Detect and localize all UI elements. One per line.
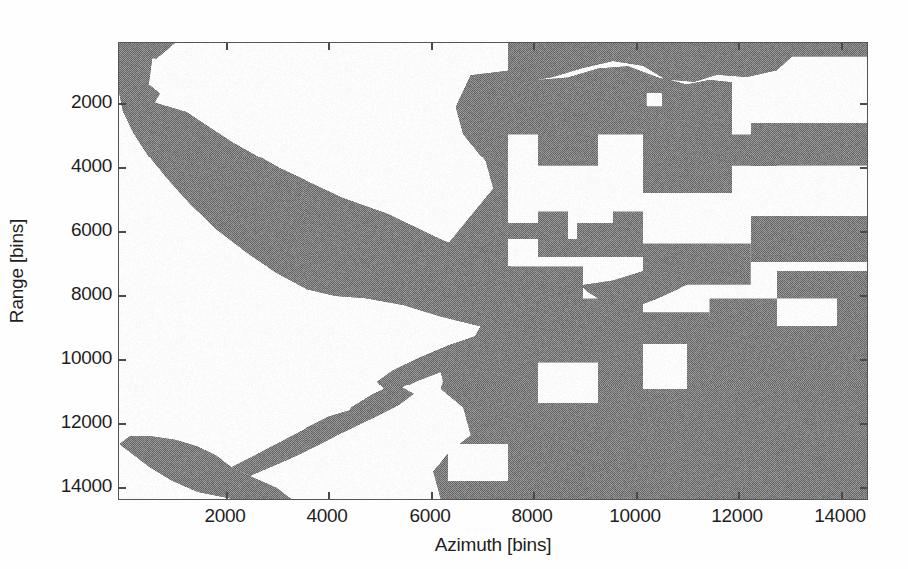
ytick-right-4000 [860, 167, 867, 169]
y-axis-label: Range [bins] [6, 219, 28, 323]
xticklabel-5: 12000 [711, 505, 762, 527]
xtick-top-4000 [328, 43, 330, 50]
xtick-8000 [533, 492, 535, 499]
ytick-12000 [119, 423, 126, 425]
mask-image [119, 43, 867, 499]
yticklabel-5: 12000 [61, 411, 112, 433]
yticklabel-0: 2000 [71, 91, 112, 113]
ytick-10000 [119, 359, 126, 361]
xtick-12000 [738, 492, 740, 499]
ytick-right-6000 [860, 231, 867, 233]
ytick-right-8000 [860, 295, 867, 297]
plot-area [118, 42, 868, 500]
xtick-top-2000 [226, 43, 228, 50]
xticklabel-0: 2000 [204, 505, 245, 527]
ytick-6000 [119, 231, 126, 233]
ytick-14000 [119, 487, 126, 489]
yticklabel-3: 8000 [71, 283, 112, 305]
xtick-14000 [841, 492, 843, 499]
xtick-6000 [431, 492, 433, 499]
xticklabel-6: 14000 [814, 505, 865, 527]
ytick-right-2000 [860, 103, 867, 105]
xticklabel-2: 6000 [409, 505, 450, 527]
yticklabel-4: 10000 [61, 347, 112, 369]
yticklabel-1: 4000 [71, 155, 112, 177]
ytick-8000 [119, 295, 126, 297]
ytick-4000 [119, 167, 126, 169]
xtick-2000 [226, 492, 228, 499]
figure-canvas: 2000 4000 6000 8000 10000 12000 14000 20… [0, 0, 908, 569]
ytick-right-14000 [860, 487, 867, 489]
yticklabel-6: 14000 [61, 475, 112, 497]
y-axis-label-container: Range [bins] [0, 42, 34, 500]
xticklabel-4: 10000 [609, 505, 660, 527]
ytick-right-12000 [860, 423, 867, 425]
xtick-top-10000 [636, 43, 638, 50]
x-axis-label: Azimuth [bins] [118, 534, 868, 556]
xtick-4000 [328, 492, 330, 499]
xtick-10000 [636, 492, 638, 499]
ytick-right-10000 [860, 359, 867, 361]
xtick-top-8000 [533, 43, 535, 50]
xtick-top-6000 [431, 43, 433, 50]
xticklabel-1: 4000 [306, 505, 347, 527]
xtick-top-12000 [738, 43, 740, 50]
ytick-2000 [119, 103, 126, 105]
xticklabel-3: 8000 [511, 505, 552, 527]
yticklabel-2: 6000 [71, 219, 112, 241]
xtick-top-14000 [841, 43, 843, 50]
